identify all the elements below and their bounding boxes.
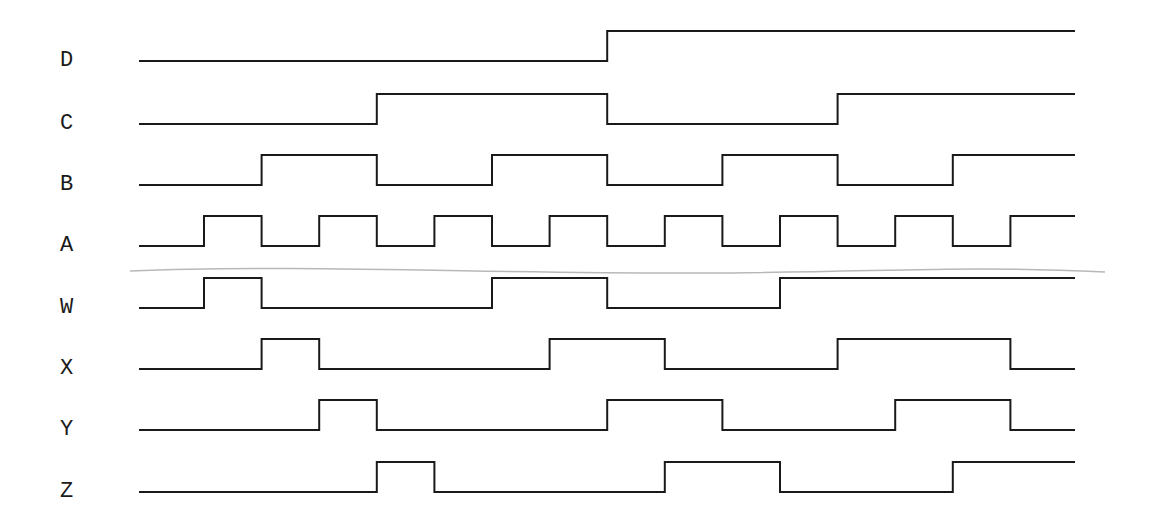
waveform-z <box>139 462 1075 492</box>
waveform-a <box>139 216 1075 246</box>
waveform-x <box>139 339 1075 369</box>
waveform-y <box>139 400 1075 430</box>
waveform-b <box>139 155 1075 185</box>
waveform-c <box>139 94 1075 124</box>
timing-diagram: D C B A W X Y Z <box>0 0 1150 525</box>
waveform-d <box>139 31 1075 61</box>
group-separator-line <box>130 268 1105 273</box>
waveform-canvas <box>0 0 1150 525</box>
waveform-w <box>139 278 1075 308</box>
